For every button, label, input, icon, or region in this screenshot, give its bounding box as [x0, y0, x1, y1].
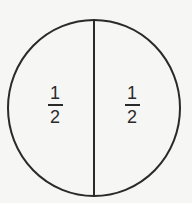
numerator-right: 1: [120, 84, 144, 102]
fraction-bar-left: [48, 104, 63, 106]
numerator-left: 1: [43, 84, 67, 102]
fraction-circle: [0, 0, 192, 203]
fraction-bar-right: [125, 104, 140, 106]
denominator-left: 2: [43, 108, 67, 126]
fraction-right: 1 2: [120, 84, 144, 126]
denominator-right: 2: [120, 108, 144, 126]
fraction-left: 1 2: [43, 84, 67, 126]
